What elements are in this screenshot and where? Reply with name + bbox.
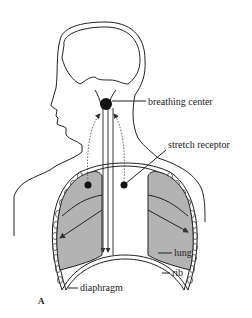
panel-letter: A [38,296,45,306]
label-diaphragm: diaphragm [80,282,123,293]
label-lung: lung [174,247,192,258]
spinal-nerve-pathway [103,108,113,255]
stretch-receptor-left [85,182,92,189]
left-lung [57,172,102,270]
breathing-control-diagram: breathing center stretch receptor lung r… [0,0,252,318]
breathing-center-dot [100,98,112,110]
label-rib: rib [172,267,183,278]
afferent-path-right [114,114,125,182]
label-breathing-center: breathing center [148,96,213,107]
label-stretch-receptor: stretch receptor [168,139,231,150]
